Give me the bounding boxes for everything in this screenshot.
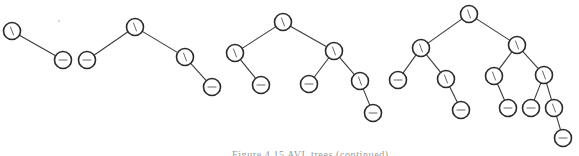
tree-2 (79, 19, 221, 96)
tree-node (55, 52, 72, 69)
tree-edge (403, 55, 416, 73)
tree-nodes (4, 6, 572, 147)
tree-node (555, 130, 572, 147)
tree-node (461, 6, 478, 23)
tree-edge (497, 84, 504, 100)
tree-node (413, 40, 430, 57)
tree-edge (476, 19, 510, 41)
tree-edge (534, 83, 541, 100)
tree-node (275, 14, 292, 31)
tree-node (453, 102, 470, 119)
tree-node (523, 100, 540, 117)
tree-node (326, 43, 343, 60)
tree-node (500, 100, 517, 117)
tree-node (177, 49, 194, 66)
tree-1-edges (19, 35, 55, 56)
tree-edge (523, 51, 539, 68)
tree-edge (363, 89, 370, 105)
tree-edge (242, 27, 276, 49)
tree-node (127, 19, 144, 36)
tree-node (365, 105, 382, 122)
tree-edge (19, 35, 55, 56)
tree-edge (340, 57, 355, 74)
tree-edge (142, 31, 177, 52)
tree-edge (556, 116, 560, 130)
tree-edge (290, 26, 326, 47)
tree-node (509, 37, 526, 54)
tree-node (546, 100, 563, 117)
tree-edge (191, 63, 207, 80)
tree-edge (450, 87, 458, 103)
tree-edge (546, 83, 551, 100)
avl-trees-diagram (0, 0, 579, 156)
tree-node (79, 52, 96, 69)
stray-dot (58, 20, 60, 22)
tree-node (536, 67, 553, 84)
tree-edge (499, 52, 512, 69)
tree-node (486, 68, 503, 85)
tree-3 (227, 14, 382, 122)
tree-node (227, 45, 244, 62)
tree-4 (390, 6, 572, 147)
tree-edge (428, 19, 462, 43)
tree-edge (240, 60, 255, 79)
tree-node (301, 76, 318, 93)
tree-edge (94, 32, 128, 55)
tree-edges (19, 19, 560, 130)
tree-node (4, 23, 21, 40)
tree-node (438, 71, 455, 88)
tree-edge (314, 58, 329, 77)
tree-node (352, 73, 369, 90)
tree-node (253, 77, 270, 94)
tree-node (390, 72, 407, 89)
tree-node (204, 79, 221, 96)
tree-edge (426, 55, 440, 73)
figure-caption: Figure 4.15 AVL trees (continued) (232, 149, 389, 156)
